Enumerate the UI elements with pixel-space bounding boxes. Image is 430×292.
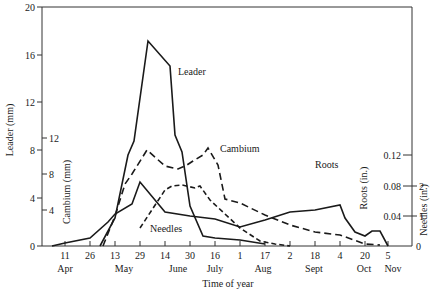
tick-label: 0 [30,241,35,252]
month-label: Sept [305,263,323,274]
series-roots [52,182,388,246]
x-axis-month-labels: Apr May June July Aug Sept Oct Nov [57,263,401,274]
tick-label: 4 [338,250,343,261]
tick-label: 29 [135,250,145,261]
tick-label: 20 [360,250,370,261]
roots-needles-axis-ticks [403,155,417,216]
leader-axis-ticks [37,7,42,246]
x-axis-tick-labels: 11 26 13 29 14 30 16 1 17 2 18 4 20 5 [60,250,390,261]
tick-label: 4 [30,193,35,204]
x-axis-ticks [65,241,388,246]
roots-axis-title: Roots (in.) [358,167,370,210]
leader-axis-tick-labels: 20 16 12 8 4 0 [25,2,35,252]
leader-axis-title: Leader (mm) [4,104,16,156]
tick-label: 2 [288,250,293,261]
series-label-leader: Leader [178,66,206,77]
tick-label: 16 [25,50,35,61]
series-label-roots: Roots [315,159,338,170]
tick-label: 13 [110,250,120,261]
tick-label: 14 [160,250,170,261]
cambium-axis-title: Cambium (mm) [61,160,73,224]
roots-axis-tick-labels: 0.12 0.08 0.04 [384,150,402,222]
tick-label: 8 [30,145,35,156]
tick-label: 26 [85,250,95,261]
tick-label: 0 [416,241,421,252]
tick-label: 30 [185,250,195,261]
tick-label: 0.08 [384,181,402,192]
series-label-cambium: Cambium [220,143,260,154]
month-label: Oct [357,263,372,274]
month-label: Apr [57,263,73,274]
cambium-axis-tick-labels: 12 8 4 [49,133,59,216]
month-label: June [169,263,188,274]
tick-label: 8 [49,169,54,180]
month-label: Aug [254,263,271,274]
tick-label: 4 [49,205,54,216]
month-label: May [115,263,133,274]
tick-label: 17 [260,250,270,261]
x-axis-title: Time of year [202,278,254,289]
tick-label: 0.04 [384,211,402,222]
month-label: Nov [384,263,401,274]
growth-chart: 20 16 12 8 4 0 Leader (mm) 12 8 4 Cambiu… [0,0,430,292]
tick-label: 11 [60,250,70,261]
series-cambium [103,148,380,246]
cambium-axis-ticks [42,138,47,210]
tick-label: 0.12 [384,150,402,161]
tick-label: 5 [386,250,391,261]
needles-axis-title: Needles (in.) [418,184,430,236]
tick-label: 12 [49,133,59,144]
series-label-needles: Needles [150,223,182,234]
tick-label: 16 [210,250,220,261]
tick-label: 20 [25,2,35,13]
tick-label: 12 [25,97,35,108]
month-label: July [207,263,224,274]
tick-label: 18 [310,250,320,261]
tick-label: 1 [238,250,243,261]
